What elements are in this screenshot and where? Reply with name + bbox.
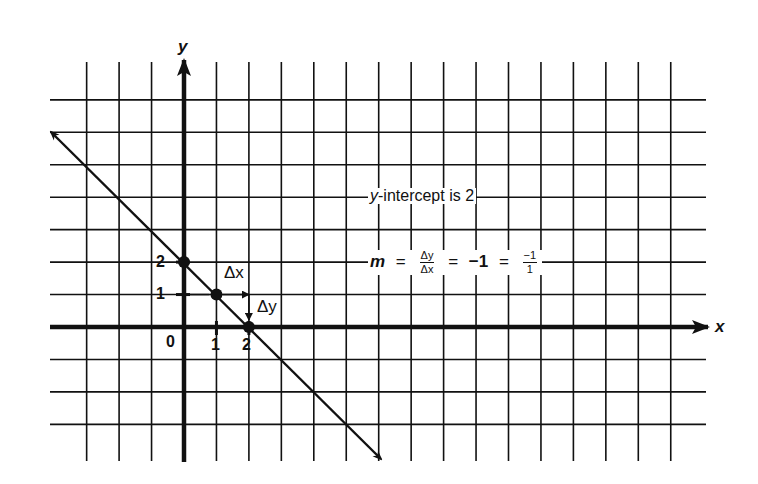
x-axis-label: x [715,318,724,335]
y-tick-1: 1 [156,286,165,302]
origin-label: 0 [166,334,175,350]
y-axis-label: y [178,38,187,55]
data-point [178,256,190,268]
y-intercept-annotation: y-intercept is 2 [368,188,476,204]
delta-y-over-delta-x: ΔyΔx [420,250,435,275]
delta-x-label: Δx [224,264,244,281]
slope-equation: m = ΔyΔx = −1 = −11 [368,250,542,275]
data-point [243,321,255,333]
plot-area [0,0,758,484]
x-tick-2: 2 [242,337,251,353]
neg-one-over-one: −11 [523,250,538,275]
data-point [210,289,222,301]
line-arrow-upper-left [51,132,216,296]
x-tick-1: 1 [211,337,220,353]
delta-y-label: Δy [257,298,277,315]
slope-intercept-chart: y x 0 1 2 1 2 Δx Δy y-intercept is 2 m =… [0,0,758,484]
y-tick-2: 2 [156,254,165,270]
line-arrow-lower-right [216,296,381,460]
